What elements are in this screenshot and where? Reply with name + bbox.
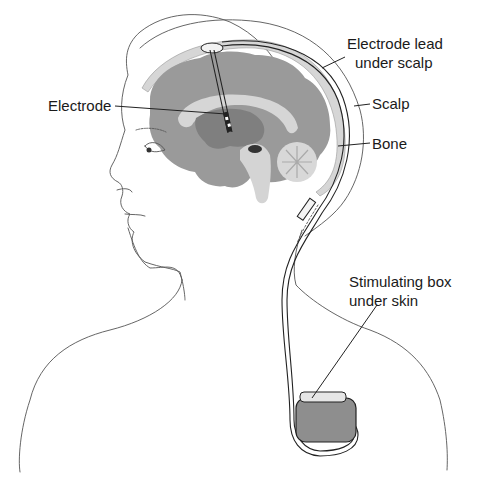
stimulator-header	[300, 392, 346, 402]
nostril	[117, 189, 132, 192]
label-stimulating-box-line2: under skin	[349, 291, 452, 310]
stimulator-box	[296, 398, 356, 442]
lead-connector	[297, 198, 315, 220]
pointer-lead	[322, 57, 345, 68]
label-scalp: Scalp	[372, 94, 410, 113]
cerebellum-folds	[282, 146, 312, 178]
pupil	[147, 148, 152, 153]
label-electrode-lead-line2: under scalp	[347, 53, 443, 72]
mouth	[125, 214, 145, 216]
label-electrode-lead: Electrode lead under scalp	[347, 34, 443, 72]
electrode-contact-gap	[225, 117, 229, 121]
label-stimulating-box-line1: Stimulating box	[349, 272, 452, 291]
electrode-contact-gap	[227, 123, 231, 127]
pons-dark-spot	[248, 145, 262, 153]
neck-shoulder-left	[19, 280, 182, 472]
burr-hole-cap	[201, 43, 223, 53]
label-electrode: Electrode	[48, 96, 111, 115]
dbs-diagram	[0, 0, 482, 490]
chin-line	[128, 228, 182, 280]
label-stimulating-box: Stimulating box under skin	[349, 272, 452, 310]
label-bone: Bone	[372, 134, 407, 153]
label-electrode-lead-line1: Electrode lead	[347, 34, 443, 53]
pointer-scalp	[354, 104, 370, 106]
